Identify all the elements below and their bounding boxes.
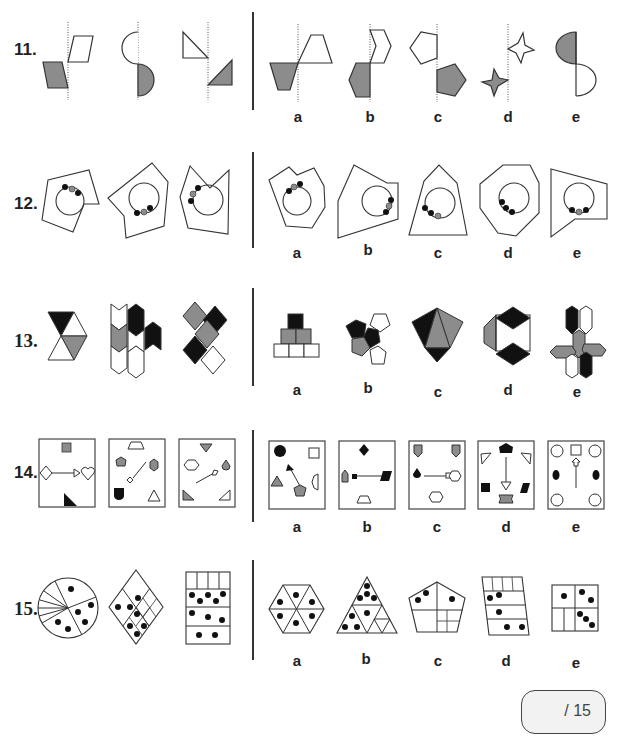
q15-prompt-3: [185, 571, 231, 645]
q14-prompt-1: [38, 438, 96, 508]
option-label: a: [288, 108, 308, 125]
option-label: e: [566, 518, 586, 535]
option-label: c: [428, 244, 448, 261]
option-label: b: [358, 379, 378, 396]
q12-option-e[interactable]: [549, 167, 611, 239]
option-label: c: [427, 518, 447, 535]
option-label: c: [428, 652, 448, 669]
divider-q11: [252, 12, 254, 110]
q14-option-d[interactable]: [477, 440, 535, 510]
option-label: d: [496, 652, 516, 669]
q13-option-d[interactable]: [482, 305, 534, 367]
q15-option-b[interactable]: [335, 575, 399, 635]
question-number: 11.: [14, 40, 37, 60]
q14-option-e[interactable]: [547, 440, 605, 510]
q12-option-a[interactable]: [267, 163, 329, 233]
question-number: 12.: [14, 194, 38, 214]
q15-option-d[interactable]: [480, 575, 532, 637]
q15-option-c[interactable]: [407, 580, 467, 636]
option-label: a: [287, 518, 307, 535]
option-label: d: [498, 244, 518, 261]
option-label: c: [428, 383, 448, 400]
option-label: b: [356, 650, 376, 667]
q12-option-b[interactable]: [336, 163, 402, 243]
q12-prompt-3: [178, 162, 238, 238]
option-label: d: [498, 108, 518, 125]
score-box: / 15: [521, 690, 606, 734]
q15-prompt-2: [108, 568, 166, 648]
q11-option-b[interactable]: [340, 24, 410, 104]
score-text: / 15: [564, 702, 591, 720]
option-label: e: [567, 244, 587, 261]
q13-option-c[interactable]: [410, 306, 466, 366]
question-number: 13.: [14, 330, 38, 352]
q11-option-e[interactable]: [546, 24, 616, 104]
option-label: b: [358, 241, 378, 258]
option-label: e: [566, 108, 586, 125]
q14-option-a[interactable]: [268, 440, 326, 510]
q15-option-e[interactable]: [551, 584, 599, 634]
q14-option-c[interactable]: [408, 440, 466, 510]
divider-q15: [252, 560, 254, 660]
option-label: c: [428, 108, 448, 125]
q11-prompt-2: [118, 22, 168, 102]
q12-option-c[interactable]: [407, 163, 469, 239]
option-label: e: [566, 654, 586, 671]
q11-option-c[interactable]: [407, 24, 477, 104]
option-label: d: [496, 518, 516, 535]
q13-prompt-2: [108, 302, 168, 378]
q14-option-b[interactable]: [338, 440, 396, 510]
q15-option-a[interactable]: [268, 583, 326, 635]
q12-option-d[interactable]: [478, 163, 544, 239]
option-label: a: [287, 244, 307, 261]
divider-q13: [252, 288, 254, 386]
option-label: b: [357, 518, 377, 535]
q11-option-a[interactable]: [268, 24, 338, 104]
option-label: d: [498, 381, 518, 398]
q14-prompt-2: [108, 438, 166, 508]
q14-prompt-3: [178, 438, 236, 508]
q15-prompt-1: [36, 576, 100, 640]
option-label: a: [287, 652, 307, 669]
q12-prompt-2: [106, 160, 172, 240]
q11-option-d[interactable]: [478, 24, 548, 104]
q13-option-e[interactable]: [548, 304, 612, 380]
q11-prompt-1: [40, 22, 100, 102]
q13-prompt-3: [180, 300, 230, 378]
question-number: 15.: [14, 598, 38, 620]
option-label: b: [360, 108, 380, 125]
q12-prompt-1: [40, 168, 102, 236]
divider-q12: [252, 152, 254, 248]
question-number: 14.: [14, 463, 38, 483]
q11-prompt-3: [180, 22, 240, 102]
q13-option-a[interactable]: [272, 312, 320, 358]
divider-q14: [252, 430, 254, 522]
q13-option-b[interactable]: [342, 312, 394, 372]
q13-prompt-1: [46, 310, 90, 370]
option-label: a: [287, 381, 307, 398]
option-label: e: [567, 383, 587, 400]
